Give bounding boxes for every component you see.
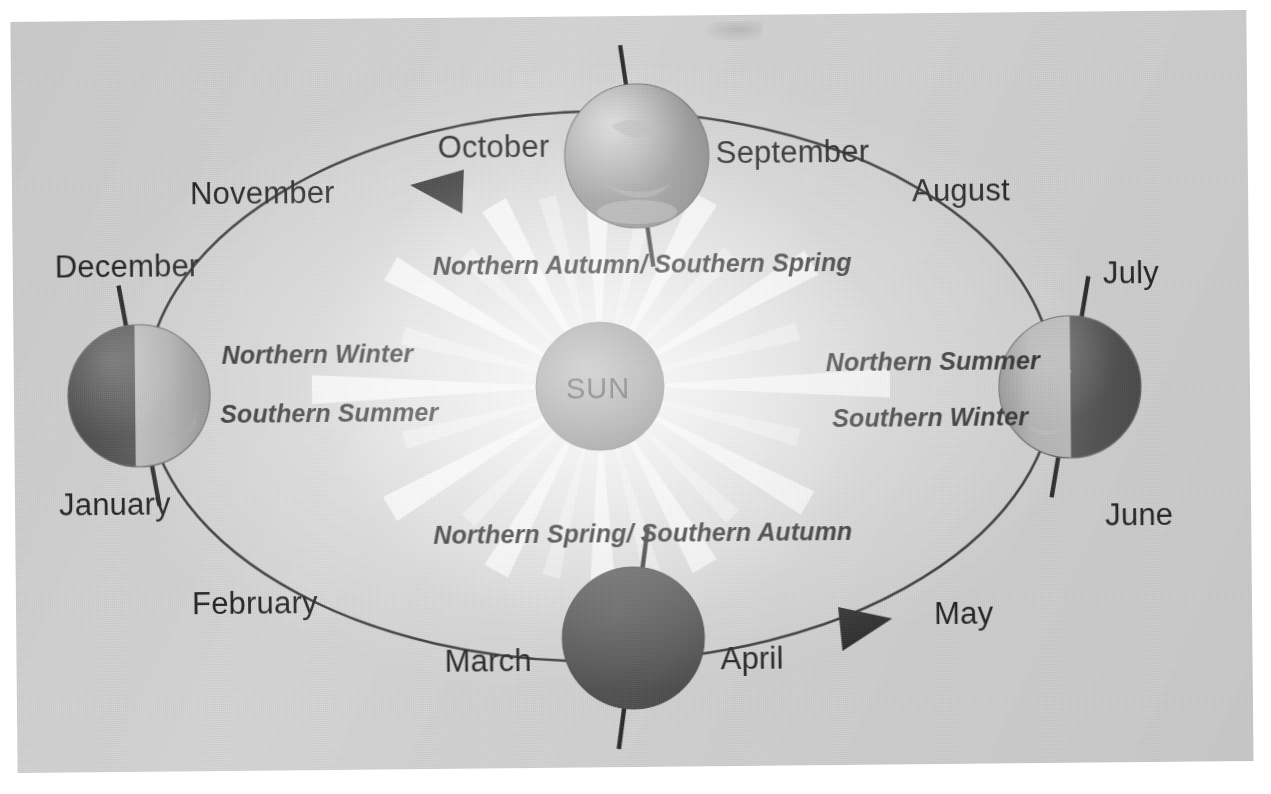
month-label-february: February: [192, 587, 318, 619]
seasons-diagram: SUN October November December January Fe…: [10, 10, 1253, 773]
season-label-southern-summer: Southern Summer: [220, 400, 438, 427]
earth-december-january: [67, 285, 211, 507]
month-label-april: April: [720, 643, 783, 675]
month-label-may: May: [934, 598, 993, 630]
month-label-december: December: [55, 250, 200, 282]
month-label-march: March: [444, 645, 531, 677]
paper-sheet: SUN October November December January Fe…: [10, 10, 1253, 773]
diagram-canvas: [10, 10, 1253, 773]
month-label-september: September: [716, 136, 870, 168]
month-label-june: June: [1105, 499, 1173, 531]
season-label-northern-summer: Northern Summer: [826, 348, 1040, 375]
season-label-bottom: Northern Spring/ Southern Autumn: [433, 519, 852, 548]
month-label-november: November: [190, 177, 335, 209]
season-label-top: Northern Autumn/ Southern Spring: [433, 250, 852, 279]
sun-label: SUN: [566, 372, 631, 406]
orbit-arrow-bottom: [838, 607, 892, 652]
month-label-august: August: [912, 174, 1010, 206]
earth-june-july: [998, 276, 1142, 498]
month-label-january: January: [59, 488, 171, 520]
month-label-october: October: [437, 131, 549, 163]
scanned-page: SUN October November December January Fe…: [0, 0, 1271, 794]
month-label-july: July: [1103, 257, 1159, 289]
season-label-northern-winter: Northern Winter: [222, 341, 414, 368]
season-label-southern-winter: Southern Winter: [832, 404, 1028, 431]
